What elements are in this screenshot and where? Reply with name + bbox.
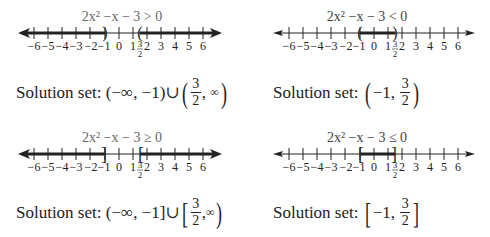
svg-text:2: 2 (393, 49, 398, 59)
svg-text:−3: −3 (325, 160, 338, 174)
svg-text:−5: −5 (42, 160, 55, 174)
fraction: 32 (191, 197, 201, 228)
svg-text:2: 2 (138, 49, 143, 59)
inequality-title: 2x² −x − 3 ≥ 0 (82, 130, 162, 145)
svg-text:4: 4 (427, 160, 433, 174)
tick-labels: −6−5 −4−3 −2−1 01 23 45 6 3 2 (283, 160, 461, 180)
solution-label: Solution set: (273, 83, 358, 103)
svg-text:−5: −5 (297, 39, 310, 53)
tick-labels: −6−5 −4−3 −2−1 01 23 45 6 3 2 (28, 160, 206, 180)
panel-less-equal: 2x² −x − 3 ≤ 0 [ ] −6−5 −4−3 −2−1 01 23 … (245, 121, 490, 237)
svg-text:−1: −1 (353, 160, 366, 174)
svg-text:2: 2 (138, 170, 143, 180)
svg-text:2: 2 (393, 170, 398, 180)
svg-text:0: 0 (116, 39, 122, 53)
svg-text:5: 5 (441, 39, 447, 53)
svg-text:5: 5 (186, 160, 192, 174)
solution-set: Solution set: ( −1, 32 ) (273, 77, 421, 108)
svg-text:6: 6 (455, 160, 461, 174)
svg-text:1: 1 (385, 160, 391, 174)
svg-text:−2: −2 (340, 39, 353, 53)
svg-text:2: 2 (399, 39, 405, 53)
svg-text:6: 6 (200, 160, 206, 174)
svg-text:−2: −2 (85, 39, 98, 53)
panel-less-than: 2x² −x − 3 < 0 ( ) −6−5 −4−3 −2−1 01 23 … (245, 0, 490, 118)
svg-text:1: 1 (385, 39, 391, 53)
svg-text:−6: −6 (28, 160, 41, 174)
svg-text:−1: −1 (353, 39, 366, 53)
svg-text:−4: −4 (311, 160, 324, 174)
solution-set: Solution set: (−∞, −1] ∪ [ 32,∞ ) (16, 197, 224, 228)
svg-text:1: 1 (130, 160, 136, 174)
fraction: 32 (400, 197, 410, 228)
svg-text:−2: −2 (85, 160, 98, 174)
svg-text:3: 3 (158, 39, 164, 53)
fraction: 32 (400, 77, 410, 108)
svg-text:−6: −6 (28, 39, 41, 53)
svg-text:−4: −4 (56, 160, 69, 174)
svg-text:0: 0 (371, 160, 377, 174)
svg-text:−6: −6 (283, 160, 296, 174)
fraction: 32 (191, 77, 201, 108)
svg-text:4: 4 (427, 39, 433, 53)
union-symbol: ∪ (165, 202, 179, 223)
svg-text:−1: −1 (98, 39, 111, 53)
svg-text:0: 0 (116, 160, 122, 174)
svg-text:3: 3 (413, 160, 419, 174)
svg-text:−5: −5 (297, 160, 310, 174)
svg-text:2: 2 (399, 160, 405, 174)
solution-label: Solution set: (273, 203, 358, 223)
inequality-title: 2x² −x − 3 > 0 (82, 9, 162, 24)
svg-text:5: 5 (441, 160, 447, 174)
number-line-less-than: 2x² −x − 3 < 0 ( ) −6−5 −4−3 −2−1 01 23 … (245, 0, 490, 70)
inequality-title: 2x² −x − 3 < 0 (327, 9, 407, 24)
svg-text:−5: −5 (42, 39, 55, 53)
svg-text:−6: −6 (283, 39, 296, 53)
svg-text:3: 3 (393, 39, 398, 49)
svg-text:3: 3 (138, 39, 143, 49)
svg-text:2: 2 (144, 160, 150, 174)
solution-set: Solution set: [ −1, 32 ] (273, 197, 421, 228)
svg-text:−1: −1 (98, 160, 111, 174)
svg-text:3: 3 (393, 160, 398, 170)
svg-text:6: 6 (455, 39, 461, 53)
svg-text:−3: −3 (325, 39, 338, 53)
svg-text:3: 3 (158, 160, 164, 174)
svg-text:2: 2 (144, 39, 150, 53)
number-line-greater-equal: 2x² −x − 3 ≥ 0 ] [ −6−5 −4−3 −2−1 01 23 … (0, 121, 245, 191)
solution-set: Solution set: (−∞, −1) ∪ ( 32, ∞ ) (16, 77, 229, 108)
number-line-greater-than: 2x² −x − 3 > 0 ) ( −6−5 −4−3 −2−1 01 23 … (0, 0, 245, 70)
svg-text:3: 3 (413, 39, 419, 53)
svg-text:5: 5 (186, 39, 192, 53)
tick-labels: −6−5 −4−3 −2−1 01 23 45 6 3 2 (283, 39, 461, 59)
svg-text:4: 4 (172, 160, 178, 174)
svg-text:−3: −3 (70, 160, 83, 174)
union-symbol: ∪ (165, 82, 179, 103)
number-line-less-equal: 2x² −x − 3 ≤ 0 [ ] −6−5 −4−3 −2−1 01 23 … (245, 121, 490, 191)
svg-text:6: 6 (200, 39, 206, 53)
svg-text:−2: −2 (340, 160, 353, 174)
solution-label: Solution set: (16, 83, 101, 103)
panel-greater-than: 2x² −x − 3 > 0 ) ( −6−5 −4−3 −2−1 01 23 … (0, 0, 245, 118)
panel-greater-equal: 2x² −x − 3 ≥ 0 ] [ −6−5 −4−3 −2−1 01 23 … (0, 121, 245, 237)
tick-labels: −6−5 −4−3 −2−1 01 23 45 6 3 2 (28, 39, 206, 59)
svg-text:0: 0 (371, 39, 377, 53)
svg-text:3: 3 (138, 160, 143, 170)
svg-text:−4: −4 (56, 39, 69, 53)
solution-label: Solution set: (16, 203, 101, 223)
svg-text:4: 4 (172, 39, 178, 53)
inequality-title: 2x² −x − 3 ≤ 0 (327, 130, 407, 145)
svg-text:1: 1 (130, 39, 136, 53)
svg-text:−4: −4 (311, 39, 324, 53)
svg-text:−3: −3 (70, 39, 83, 53)
